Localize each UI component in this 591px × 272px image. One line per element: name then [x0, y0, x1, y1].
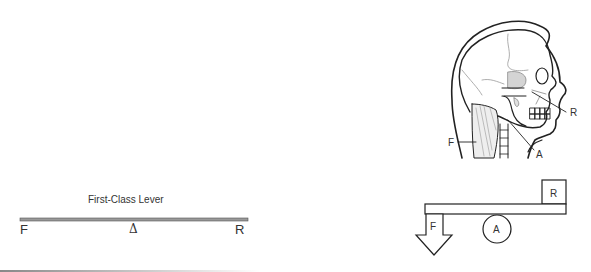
cervical-spine: [500, 124, 508, 158]
lever-beam: [425, 204, 566, 214]
model-label-resistance: R: [550, 188, 557, 199]
model-label-force: F: [430, 221, 436, 232]
lever-model-diagram: R A F: [400, 170, 591, 272]
lever-label-fulcrum: Δ: [129, 222, 138, 236]
lever-label-force: F: [20, 222, 28, 237]
head-label-axis: A: [536, 149, 543, 160]
lever-bar: [20, 218, 248, 221]
first-class-lever-diagram: [0, 0, 300, 272]
head-outline: [452, 21, 566, 158]
model-label-axis: A: [493, 224, 500, 235]
eye-socket: [536, 68, 548, 84]
lever-label-resistance: R: [235, 222, 244, 237]
head-skull-diagram: F A R: [400, 0, 591, 175]
head-label-force: F: [448, 137, 454, 148]
head-label-resistance: R: [570, 107, 577, 118]
cheekbone: [508, 71, 526, 88]
mastoid: [514, 98, 519, 107]
suture-lines: [508, 34, 528, 71]
